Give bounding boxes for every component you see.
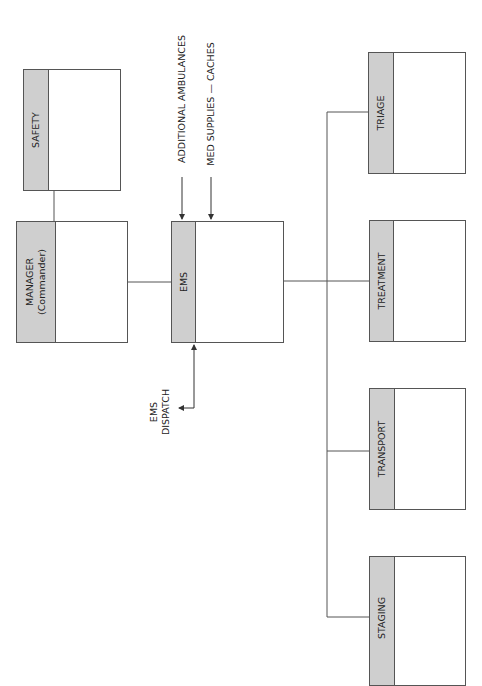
node-staging-band: STAGING — [370, 557, 395, 685]
node-manager-label-group: MANAGER (Commander) — [24, 249, 48, 315]
node-manager-label: MANAGER — [24, 249, 36, 315]
node-treatment-label: TREATMENT — [376, 252, 388, 309]
node-ems-label: EMS — [178, 272, 190, 292]
label-additional-ambulances: ADDITIONAL AMBULANCES — [176, 29, 188, 169]
label-ems-dispatch: EMS DISPATCH — [148, 387, 172, 437]
node-staging-label: STAGING — [376, 597, 388, 639]
label-med-supplies: MED SUPPLIES — CACHES — [205, 39, 217, 169]
node-triage: TRIAGE — [368, 52, 466, 174]
node-safety-band: SAFETY — [24, 70, 49, 190]
node-ems: EMS — [171, 221, 284, 343]
node-treatment-band: TREATMENT — [370, 221, 394, 341]
node-treatment: TREATMENT — [369, 220, 466, 342]
node-safety: SAFETY — [23, 69, 121, 191]
label-ems-dispatch-line1: EMS — [148, 387, 160, 437]
node-ems-band: EMS — [172, 222, 196, 342]
node-manager-sublabel: (Commander) — [36, 249, 48, 315]
label-ems-dispatch-line2: DISPATCH — [160, 387, 172, 437]
node-manager-band: MANAGER (Commander) — [17, 222, 56, 342]
node-manager: MANAGER (Commander) — [16, 221, 128, 343]
node-staging: STAGING — [369, 556, 466, 686]
node-safety-label: SAFETY — [30, 112, 42, 148]
node-triage-label: TRIAGE — [375, 96, 387, 131]
node-transport: TRANSPORT — [369, 388, 466, 510]
node-transport-band: TRANSPORT — [370, 389, 395, 509]
node-triage-band: TRIAGE — [369, 53, 394, 173]
node-transport-label: TRANSPORT — [376, 421, 388, 478]
